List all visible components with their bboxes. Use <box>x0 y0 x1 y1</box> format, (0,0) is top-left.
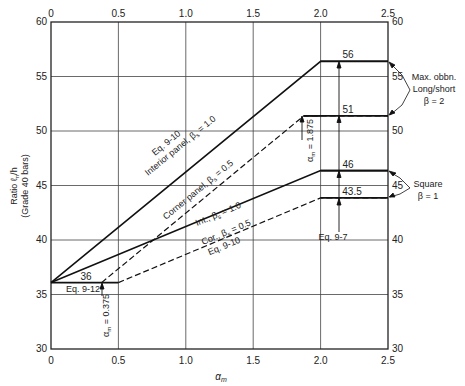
y-axis-label: Ratio ℓn/h (Grade 40 bars) <box>9 154 30 218</box>
x-tick: 0 <box>48 355 54 366</box>
x-tick: 0.5 <box>111 355 125 366</box>
x-tick: 2.0 <box>314 355 328 366</box>
max-label-3: β = 2 <box>424 96 444 106</box>
line-int-beta1 <box>51 171 388 283</box>
x-tick: 1.5 <box>246 8 260 19</box>
y-ticks-left: 30 35 40 45 50 55 60 <box>36 16 48 354</box>
value-51: 51 <box>342 104 354 115</box>
am1875-label: αm = 1.875 <box>305 119 316 162</box>
y-tick: 45 <box>36 180 48 191</box>
x-ticks-bottom: 0 0.5 1.0 1.5 2.0 2.5 <box>48 355 395 366</box>
x-axis-label: αm <box>215 371 227 383</box>
y-tick: 50 <box>392 125 404 136</box>
y-tick: 30 <box>36 343 48 354</box>
y-tick: 35 <box>36 289 48 300</box>
x-tick: 2.5 <box>381 355 395 366</box>
eq912-label: Eq. 9-12 <box>66 284 100 294</box>
y-tick: 60 <box>392 16 404 27</box>
svg-text:Ratio ℓn/h: Ratio ℓn/h <box>9 167 20 204</box>
y-tick: 40 <box>392 234 404 245</box>
chart: 0 0.5 1.0 1.5 2.0 2.5 0 0.5 1.0 1.5 2.0 … <box>0 0 465 386</box>
value-56: 56 <box>342 49 354 60</box>
svg-text:(Grade 40 bars): (Grade 40 bars) <box>20 154 30 218</box>
am0375-label: αm = 0.375 <box>101 294 112 337</box>
y-tick: 30 <box>392 343 404 354</box>
x-tick: 0 <box>48 8 54 19</box>
max-label-1: Max. obbn. <box>412 72 457 82</box>
y-tick: 50 <box>36 125 48 136</box>
x-tick: 1.0 <box>179 8 193 19</box>
cor-label: Cor., βs = 0.5 Eq. 9-10 <box>200 217 257 257</box>
line-corner-beta05 <box>102 116 388 283</box>
y-tick: 45 <box>392 180 404 191</box>
eq97-arrows <box>337 62 341 233</box>
eq97-label: Eq. 9-7 <box>318 232 347 242</box>
y-tick: 60 <box>36 16 48 27</box>
y-tick: 40 <box>36 234 48 245</box>
square-label-1: Square <box>413 179 442 189</box>
y-tick: 55 <box>36 71 48 82</box>
x-tick: 0.5 <box>111 8 125 19</box>
am1875-marker <box>300 116 304 140</box>
value-43-5: 43.5 <box>342 186 362 197</box>
square-label-2: β = 1 <box>418 191 438 201</box>
x-tick: 1.0 <box>179 355 193 366</box>
max-label-2: Long/short <box>413 84 456 94</box>
y-tick: 35 <box>392 289 404 300</box>
interior-label: Eq. 9-10 Interior panel, βs = 1.0 <box>136 105 218 178</box>
svg-text:αm = 1.875: αm = 1.875 <box>305 119 316 162</box>
value-46: 46 <box>342 159 354 170</box>
svg-text:αm = 0.375: αm = 0.375 <box>101 294 112 337</box>
x-tick: 1.5 <box>246 355 260 366</box>
y-tick: 55 <box>392 71 404 82</box>
value-36: 36 <box>80 271 92 282</box>
x-tick: 2.0 <box>314 8 328 19</box>
x-ticks-top: 0 0.5 1.0 1.5 2.0 2.5 <box>48 8 395 19</box>
